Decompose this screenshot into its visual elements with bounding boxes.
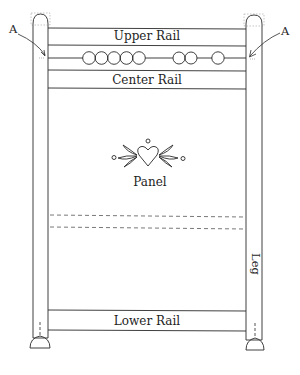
top-dot <box>146 139 150 143</box>
panel-label: Panel <box>133 176 166 188</box>
callout-a-right: A <box>281 26 289 38</box>
bead-strip <box>48 52 246 65</box>
leg-label: Leg <box>250 253 262 275</box>
dashed-lines <box>50 215 246 229</box>
frame-diagram: Upper Rail Center Rail Panel Lower Rail … <box>0 0 300 375</box>
lower-rail-label: Lower Rail <box>114 315 180 327</box>
right-leg <box>244 14 264 350</box>
center-rail-label: Center Rail <box>112 74 182 86</box>
callout-a-left: A <box>9 24 17 36</box>
heart-ornament <box>112 139 185 167</box>
left-leg <box>30 13 50 348</box>
heart <box>138 146 159 166</box>
upper-rail-label: Upper Rail <box>114 30 180 42</box>
